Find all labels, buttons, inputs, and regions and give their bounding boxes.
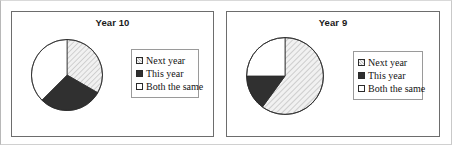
legend-item-this-year: This year bbox=[358, 69, 417, 82]
legend-label-next-year: Next year bbox=[146, 55, 185, 66]
legend-swatch-dark-icon bbox=[136, 70, 143, 77]
legend-swatch-hatched-icon bbox=[358, 59, 365, 66]
legend-label-both-the-same: Both the same bbox=[146, 81, 203, 92]
legend-label-next-year: Next year bbox=[368, 57, 407, 68]
chart-title-year9: Year 9 bbox=[227, 17, 439, 29]
legend-label-this-year: This year bbox=[368, 70, 406, 81]
legend-label-this-year: This year bbox=[146, 68, 184, 79]
legend-label-both-the-same: Both the same bbox=[368, 83, 425, 94]
figure-container: Year 10 Next yea bbox=[0, 0, 452, 145]
chart-panel-year10: Year 10 Next yea bbox=[11, 11, 214, 137]
pie-chart-year10 bbox=[30, 38, 104, 112]
legend-item-next-year: Next year bbox=[358, 56, 417, 69]
pie-slice-both-the-same bbox=[247, 38, 285, 76]
legend-swatch-white-icon bbox=[358, 85, 365, 92]
legend-item-both-the-same: Both the same bbox=[136, 80, 193, 93]
legend-swatch-white-icon bbox=[136, 83, 143, 90]
legend-item-this-year: This year bbox=[136, 67, 193, 80]
legend-item-both-the-same: Both the same bbox=[358, 82, 417, 95]
legend-year10: Next year This year Both the same bbox=[131, 49, 199, 98]
chart-title-year10: Year 10 bbox=[12, 17, 213, 29]
pie-chart-year9 bbox=[245, 36, 325, 116]
legend-item-next-year: Next year bbox=[136, 54, 193, 67]
chart-panel-year9: Year 9 Next year bbox=[226, 11, 440, 137]
legend-swatch-hatched-icon bbox=[136, 57, 143, 64]
legend-year9: Next year This year Both the same bbox=[353, 51, 423, 100]
legend-swatch-dark-icon bbox=[358, 72, 365, 79]
